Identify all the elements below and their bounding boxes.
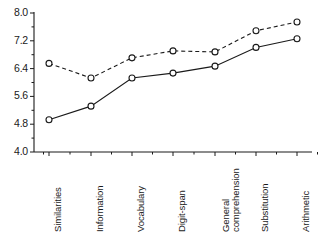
x-tick-label: Substitution — [260, 184, 270, 232]
x-tick-label: Digit-span — [177, 190, 187, 232]
y-tick-label: 7.2 — [2, 34, 28, 46]
chart-series — [46, 19, 300, 123]
y-tick-label: 5.6 — [2, 89, 28, 101]
chart-axes — [30, 12, 318, 156]
y-tick-label: 4.8 — [2, 117, 28, 129]
y-tick-label: 4.0 — [2, 145, 28, 157]
y-tick-label: 6.4 — [2, 62, 28, 74]
x-tick-label: Vocabulary — [136, 186, 146, 232]
chart-figure: 8.07.26.45.64.84.0 SimilaritiesInformati… — [0, 0, 319, 238]
line-chart-plot — [0, 0, 319, 238]
x-tick-label: Similarities — [53, 187, 63, 232]
x-tick-label: Arithmetic — [301, 191, 311, 232]
x-tick-label: General comprehension — [221, 160, 241, 232]
x-tick-label: Information — [95, 186, 105, 232]
y-tick-label: 8.0 — [2, 6, 28, 18]
